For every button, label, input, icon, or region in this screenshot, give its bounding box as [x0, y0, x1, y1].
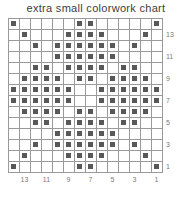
grid-cell-empty[interactable]: [141, 162, 152, 173]
grid-cell-empty[interactable]: [42, 52, 53, 63]
grid-cell-empty[interactable]: [152, 118, 163, 129]
grid-cell-empty[interactable]: [130, 19, 141, 30]
grid-cell-filled[interactable]: [20, 85, 31, 96]
grid-cell-empty[interactable]: [86, 85, 97, 96]
grid-cell-empty[interactable]: [53, 63, 64, 74]
grid-cell-empty[interactable]: [20, 118, 31, 129]
grid-cell-filled[interactable]: [53, 107, 64, 118]
grid-cell-filled[interactable]: [53, 129, 64, 140]
grid-cell-empty[interactable]: [141, 118, 152, 129]
grid-cell-filled[interactable]: [108, 74, 119, 85]
grid-cell-filled[interactable]: [75, 30, 86, 41]
grid-cell-filled[interactable]: [86, 129, 97, 140]
grid-cell-filled[interactable]: [141, 151, 152, 162]
grid-cell-empty[interactable]: [64, 74, 75, 85]
grid-cell-filled[interactable]: [141, 74, 152, 85]
grid-cell-filled[interactable]: [130, 74, 141, 85]
grid-cell-empty[interactable]: [119, 30, 130, 41]
grid-cell-filled[interactable]: [97, 85, 108, 96]
grid-cell-empty[interactable]: [152, 63, 163, 74]
grid-cell-filled[interactable]: [108, 129, 119, 140]
grid-cell-filled[interactable]: [130, 85, 141, 96]
grid-cell-filled[interactable]: [42, 118, 53, 129]
grid-cell-filled[interactable]: [152, 85, 163, 96]
grid-cell-filled[interactable]: [108, 107, 119, 118]
grid-cell-empty[interactable]: [108, 162, 119, 173]
grid-cell-filled[interactable]: [75, 140, 86, 151]
grid-cell-filled[interactable]: [86, 151, 97, 162]
grid-cell-filled[interactable]: [64, 129, 75, 140]
grid-cell-filled[interactable]: [130, 96, 141, 107]
grid-cell-filled[interactable]: [9, 19, 20, 30]
grid-cell-filled[interactable]: [108, 85, 119, 96]
grid-cell-filled[interactable]: [75, 129, 86, 140]
grid-cell-filled[interactable]: [53, 41, 64, 52]
grid-cell-filled[interactable]: [86, 41, 97, 52]
grid-cell-empty[interactable]: [42, 129, 53, 140]
grid-cell-empty[interactable]: [108, 19, 119, 30]
grid-cell-filled[interactable]: [97, 30, 108, 41]
grid-cell-filled[interactable]: [31, 118, 42, 129]
grid-cell-filled[interactable]: [75, 41, 86, 52]
grid-cell-filled[interactable]: [53, 74, 64, 85]
grid-cell-empty[interactable]: [20, 162, 31, 173]
grid-cell-filled[interactable]: [75, 151, 86, 162]
grid-cell-filled[interactable]: [75, 63, 86, 74]
grid-cell-filled[interactable]: [75, 162, 86, 173]
grid-cell-empty[interactable]: [97, 19, 108, 30]
grid-cell-filled[interactable]: [31, 41, 42, 52]
grid-cell-filled[interactable]: [64, 85, 75, 96]
grid-cell-filled[interactable]: [97, 52, 108, 63]
grid-cell-filled[interactable]: [108, 96, 119, 107]
grid-cell-empty[interactable]: [130, 129, 141, 140]
grid-cell-empty[interactable]: [152, 107, 163, 118]
grid-cell-empty[interactable]: [130, 30, 141, 41]
grid-cell-filled[interactable]: [20, 107, 31, 118]
grid-cell-empty[interactable]: [53, 162, 64, 173]
grid-cell-empty[interactable]: [9, 74, 20, 85]
grid-cell-empty[interactable]: [141, 41, 152, 52]
grid-cell-filled[interactable]: [86, 52, 97, 63]
grid-cell-filled[interactable]: [31, 96, 42, 107]
grid-cell-filled[interactable]: [119, 63, 130, 74]
grid-cell-filled[interactable]: [75, 52, 86, 63]
grid-cell-empty[interactable]: [152, 41, 163, 52]
grid-cell-filled[interactable]: [53, 52, 64, 63]
grid-cell-empty[interactable]: [130, 151, 141, 162]
grid-cell-empty[interactable]: [9, 41, 20, 52]
grid-cell-empty[interactable]: [141, 52, 152, 63]
grid-cell-filled[interactable]: [31, 74, 42, 85]
grid-cell-empty[interactable]: [152, 52, 163, 63]
grid-cell-filled[interactable]: [75, 19, 86, 30]
grid-cell-filled[interactable]: [86, 107, 97, 118]
grid-cell-empty[interactable]: [20, 19, 31, 30]
grid-cell-filled[interactable]: [108, 41, 119, 52]
grid-cell-filled[interactable]: [130, 41, 141, 52]
grid-cell-filled[interactable]: [9, 85, 20, 96]
grid-cell-empty[interactable]: [42, 140, 53, 151]
grid-cell-empty[interactable]: [141, 19, 152, 30]
grid-cell-filled[interactable]: [152, 96, 163, 107]
grid-cell-empty[interactable]: [9, 140, 20, 151]
grid-cell-empty[interactable]: [141, 129, 152, 140]
grid-cell-empty[interactable]: [119, 52, 130, 63]
grid-cell-empty[interactable]: [42, 151, 53, 162]
grid-cell-filled[interactable]: [75, 74, 86, 85]
grid-cell-empty[interactable]: [9, 129, 20, 140]
grid-cell-filled[interactable]: [42, 63, 53, 74]
grid-cell-filled[interactable]: [97, 41, 108, 52]
grid-cell-empty[interactable]: [152, 30, 163, 41]
grid-cell-empty[interactable]: [9, 30, 20, 41]
grid-cell-empty[interactable]: [119, 140, 130, 151]
grid-cell-filled[interactable]: [97, 140, 108, 151]
grid-cell-filled[interactable]: [130, 63, 141, 74]
grid-cell-empty[interactable]: [9, 118, 20, 129]
grid-cell-empty[interactable]: [42, 162, 53, 173]
grid-cell-empty[interactable]: [97, 162, 108, 173]
grid-cell-empty[interactable]: [97, 107, 108, 118]
grid-cell-empty[interactable]: [119, 129, 130, 140]
grid-cell-filled[interactable]: [64, 151, 75, 162]
grid-cell-filled[interactable]: [119, 96, 130, 107]
grid-cell-empty[interactable]: [130, 52, 141, 63]
grid-cell-empty[interactable]: [9, 63, 20, 74]
